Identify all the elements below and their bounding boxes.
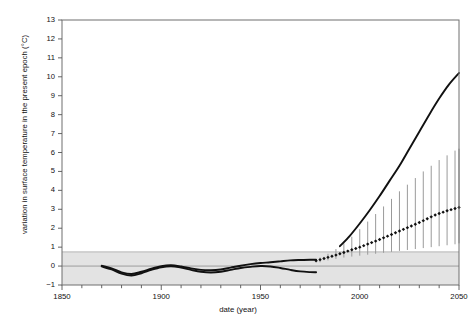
projection-marker xyxy=(449,208,452,211)
projection-marker xyxy=(422,219,425,222)
projection-marker xyxy=(382,236,385,239)
projection-marker xyxy=(445,209,448,212)
shaded-band-layer xyxy=(62,252,459,285)
plot-canvas xyxy=(0,0,476,325)
projection-marker xyxy=(441,210,444,213)
projection-marker xyxy=(390,233,393,236)
projection-marker xyxy=(414,223,417,226)
series-layer xyxy=(102,73,461,276)
projection-marker xyxy=(433,213,436,216)
projection-marker xyxy=(362,244,365,247)
projection-marker xyxy=(418,221,421,224)
projection-marker xyxy=(437,212,440,215)
temperature-projection-chart: variation in surface temperature in the … xyxy=(0,0,476,325)
axis-ticks-layer xyxy=(58,20,459,290)
projection-marker xyxy=(430,215,433,218)
projection-marker xyxy=(406,226,409,229)
projection-marker xyxy=(378,238,381,241)
projection-marker xyxy=(350,248,353,251)
projection-marker xyxy=(453,207,456,210)
projection-marker xyxy=(394,231,397,234)
projection-marker xyxy=(410,224,413,227)
projection-marker xyxy=(426,217,429,220)
projection-marker xyxy=(386,234,389,237)
natural-variability-band xyxy=(62,252,459,285)
projection-marker xyxy=(366,242,369,245)
projection-marker xyxy=(402,228,405,231)
projection-marker xyxy=(370,241,373,244)
projection-marker xyxy=(398,229,401,232)
projection-marker xyxy=(354,247,357,250)
projection-marker xyxy=(358,245,361,248)
projection-marker xyxy=(374,239,377,242)
